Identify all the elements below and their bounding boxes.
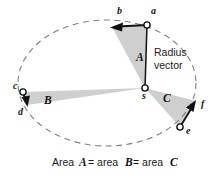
- figure-caption: Area A = area B = area C: [52, 156, 178, 168]
- caption-segment-4: = area: [133, 156, 163, 168]
- point-label-f: f: [201, 98, 206, 109]
- point-label-a: a: [151, 5, 156, 16]
- caption-segment-2: = area: [88, 156, 118, 168]
- point-marker-c: [20, 89, 26, 95]
- kepler-second-law-figure: a b c d e f s A B C Radius vector Area A…: [0, 0, 214, 176]
- caption-segment-1: A: [78, 156, 87, 168]
- area-label-B: B: [43, 94, 52, 106]
- swept-area-B-wedge: [23, 88, 145, 105]
- figure-canvas: a b c d e f s A B C Radius vector Area A…: [0, 0, 214, 176]
- point-marker-e: [177, 124, 183, 130]
- point-label-b: b: [117, 5, 122, 16]
- caption-segment-0: Area: [52, 156, 74, 168]
- radius-vector-annotation-line1: Radius: [154, 46, 187, 58]
- point-label-d: d: [18, 106, 24, 117]
- area-label-A: A: [135, 51, 144, 63]
- focus-point-label-s: s: [141, 90, 146, 101]
- point-marker-a: [144, 22, 150, 28]
- orbit-ellipse: [18, 20, 196, 146]
- area-label-C: C: [163, 92, 171, 104]
- radius-vector-annotation-line2: vector: [154, 59, 183, 71]
- point-label-e: e: [186, 125, 191, 136]
- point-label-c: c: [13, 80, 18, 91]
- caption-segment-3: B: [124, 156, 133, 168]
- caption-segment-5: C: [170, 156, 178, 168]
